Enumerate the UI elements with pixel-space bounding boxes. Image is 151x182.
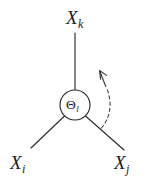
variable-subscript-xk: k — [78, 17, 83, 31]
diagram-canvas: Xk Xi Xj Θl — [0, 0, 151, 182]
theta-node-label: Θl — [66, 98, 78, 112]
theta-subscript: l — [76, 104, 79, 114]
edge-theta-xj — [86, 116, 125, 150]
variable-label-xk: Xk — [66, 8, 83, 27]
variable-symbol-xi: X — [10, 152, 22, 173]
variable-subscript-xj: j — [126, 162, 129, 176]
rotation-arrow-head — [100, 71, 107, 87]
variable-label-xj: Xj — [114, 153, 129, 172]
rotation-arrow-arc — [102, 88, 111, 129]
variable-label-xi: Xi — [10, 153, 25, 172]
variable-symbol-xj: X — [114, 152, 126, 173]
edge-theta-xi — [31, 116, 65, 148]
variable-symbol-xk: X — [66, 7, 78, 28]
variable-subscript-xi: i — [22, 162, 25, 176]
theta-symbol: Θ — [66, 97, 76, 112]
